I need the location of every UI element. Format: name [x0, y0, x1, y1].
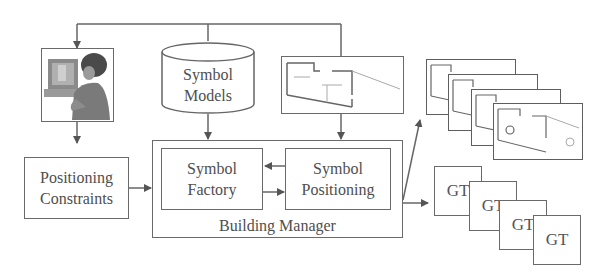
arrow-manager-to-plans	[403, 120, 420, 200]
positioning-constraints-label-line2: Constraints	[25, 188, 128, 209]
symbol-factory-label-line1: Symbol	[162, 158, 262, 179]
symbol-positioning-label-line2: Positioning	[286, 179, 390, 200]
building-manager-label: Building Manager	[153, 215, 402, 236]
symbol-factory-node: Symbol Factory	[161, 148, 263, 210]
floor-plan-icon	[494, 104, 581, 158]
symbol-positioning-label-line1: Symbol	[286, 158, 390, 179]
user-at-computer-node	[41, 48, 114, 122]
symbol-factory-label-line2: Factory	[162, 179, 262, 200]
positioning-constraints-node: Positioning Constraints	[24, 157, 129, 219]
ground-truth-box-4: GT	[533, 215, 581, 265]
output-plan-sheet-4	[493, 103, 583, 160]
floor-plan-icon	[282, 57, 402, 112]
symbol-positioning-node: Symbol Positioning	[285, 148, 391, 210]
user-at-computer-icon	[42, 49, 112, 120]
floor-plan-input	[281, 56, 404, 114]
symbol-models-label: Symbol Models	[162, 64, 254, 106]
positioning-constraints-label-line1: Positioning	[25, 167, 128, 188]
